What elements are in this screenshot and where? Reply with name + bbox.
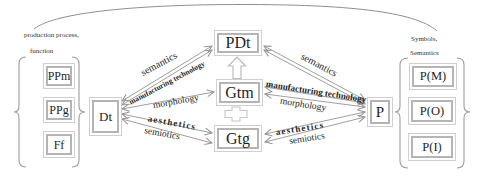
left-group-caption-line2: function [30,48,53,55]
top-arc-connector [34,5,437,32]
left-group-open-brace [14,57,26,167]
node-gtm: Gtm [216,79,263,106]
up-block-arrow-icon [229,57,246,79]
node-pdt: PDt [214,30,262,56]
right-group-caption-line2: Semantics [410,50,439,57]
node-ppg: PPg [43,97,75,123]
right-group-open-brace [395,58,408,168]
diagram-canvas: production process, function Symbols, Se… [0,0,484,176]
node-ppm: PPm [43,63,75,89]
node-po: P(O) [408,97,456,125]
node-pi: P(I) [408,133,456,161]
node-ff: Ff [43,131,75,158]
right-group-close-brace [457,58,470,168]
node-gtg: Gtg [214,125,262,152]
node-p: P [367,97,393,127]
node-dt: Dt [89,97,122,136]
right-group-caption-line1: Symbols, [411,36,437,43]
left-group-caption-line1: production process, [24,32,79,39]
node-pm: P(M) [409,63,457,90]
plus-connector-icon [225,107,247,121]
